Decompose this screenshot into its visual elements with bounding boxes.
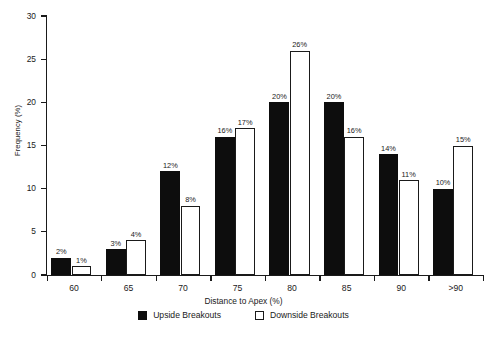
- x-axis-tick: [374, 275, 375, 281]
- x-axis-tick: [428, 275, 429, 281]
- y-axis-tick: [41, 59, 47, 60]
- bar-value-label: 15%: [447, 135, 479, 144]
- legend-label-upside: Upside Breakouts: [153, 311, 221, 320]
- y-axis-title: Frequency (%): [13, 81, 22, 181]
- x-axis-tick-label: 85: [319, 283, 374, 293]
- legend-label-downside: Downside Breakouts: [270, 311, 349, 320]
- y-axis-tick-label: 0: [2, 270, 36, 280]
- x-axis-tick-label: 90: [374, 283, 429, 293]
- x-axis-tick-label: 70: [156, 283, 211, 293]
- y-axis-tick-label: 30: [2, 11, 36, 21]
- bar-value-label: 26%: [284, 40, 316, 49]
- x-axis-tick: [265, 275, 266, 281]
- legend-item-downside: Downside Breakouts: [255, 311, 349, 320]
- x-axis-tick-label: 80: [265, 283, 320, 293]
- bar-downside-60: [72, 266, 92, 275]
- bar-downside-85: [344, 137, 364, 275]
- x-axis-tick-label: 75: [210, 283, 265, 293]
- y-axis-tick-label: 15: [2, 140, 36, 150]
- y-axis-tick-label: 20: [2, 97, 36, 107]
- bar-upside->90: [433, 189, 453, 275]
- bar-upside-70: [160, 171, 180, 275]
- y-axis-tick: [41, 102, 47, 103]
- bar-downside-65: [126, 240, 146, 275]
- x-axis-tick: [319, 275, 320, 281]
- hollow-square-icon: [255, 311, 264, 320]
- filled-square-icon: [138, 311, 147, 320]
- bar-value-label: 14%: [373, 144, 405, 153]
- x-axis-tick: [210, 275, 211, 281]
- chart-legend: Upside Breakouts Downside Breakouts: [0, 311, 487, 320]
- bar-value-label: 8%: [175, 195, 207, 204]
- x-axis-tick: [47, 275, 48, 281]
- bar-value-label: 16%: [338, 126, 370, 135]
- y-axis-tick: [41, 188, 47, 189]
- bar-value-label: 4%: [120, 230, 152, 239]
- bar-value-label: 11%: [393, 170, 425, 179]
- bar-value-label: 12%: [154, 161, 186, 170]
- x-axis-tick-label: 60: [47, 283, 102, 293]
- x-axis-tick-label: >90: [428, 283, 483, 293]
- bar-value-label: 20%: [318, 92, 350, 101]
- bar-value-label: 1%: [66, 256, 98, 265]
- y-axis-tick: [41, 15, 47, 16]
- bar-downside-80: [290, 51, 310, 275]
- bar-upside-75: [215, 137, 235, 275]
- bar-downside-70: [181, 206, 201, 275]
- y-axis-tick-label: 25: [2, 54, 36, 64]
- bar-value-label: 2%: [45, 247, 77, 256]
- x-axis-tick: [156, 275, 157, 281]
- bar-downside-90: [399, 180, 419, 275]
- x-axis-title: Distance to Apex (%): [0, 296, 487, 306]
- bar-downside-75: [235, 128, 255, 275]
- x-axis-tick: [101, 275, 102, 281]
- bar-downside->90: [453, 146, 473, 276]
- x-axis-tick: [483, 275, 484, 281]
- y-axis-tick: [41, 145, 47, 146]
- bar-chart: Frequency (%) 051015202530 2%3%12%16%20%…: [0, 0, 487, 337]
- bar-upside-65: [106, 249, 126, 275]
- y-axis-tick-label: 5: [2, 226, 36, 236]
- x-axis-tick-label: 65: [101, 283, 156, 293]
- y-axis-tick-label: 10: [2, 183, 36, 193]
- bar-upside-80: [269, 102, 289, 275]
- legend-item-upside: Upside Breakouts: [138, 311, 221, 320]
- y-axis-tick: [41, 231, 47, 232]
- bar-value-label: 17%: [229, 118, 261, 127]
